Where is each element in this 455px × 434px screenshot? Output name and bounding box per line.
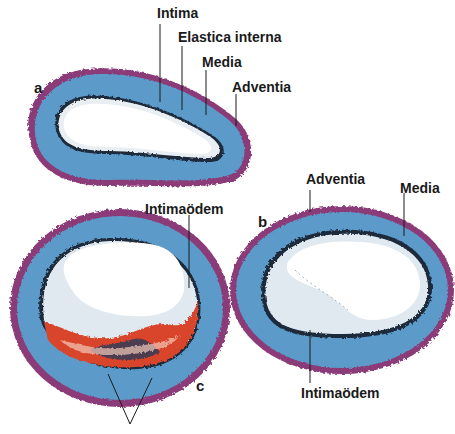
panel-letter-b: b [258, 214, 267, 229]
label-adventitia-b: Adventia [306, 172, 365, 186]
panel-letter-c: c [196, 378, 204, 393]
label-media-a: Media [202, 55, 242, 69]
artery-a [28, 68, 251, 186]
label-intimaodem-c: Intimaödem [145, 202, 224, 216]
label-intimaodem-b: Intimaödem [301, 386, 380, 400]
label-adventitia-a: Adventia [232, 80, 291, 94]
label-intima: Intima [157, 6, 198, 20]
artery-b [230, 206, 454, 374]
panel-letter-a: a [34, 80, 42, 95]
label-elastica-interna: Elastica interna [178, 30, 282, 44]
label-media-b: Media [400, 181, 440, 195]
